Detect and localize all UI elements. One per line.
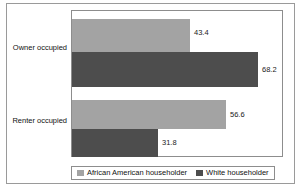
legend-label-white-householder: White householder bbox=[206, 169, 269, 177]
legend-item-african-american-householder: African American householder bbox=[77, 169, 187, 177]
plot-area: 43.4 68.2 56.6 31.8 bbox=[71, 10, 283, 157]
bar-group-renter-occupied: 56.6 31.8 bbox=[72, 100, 282, 156]
legend-label-african-american-householder: African American householder bbox=[87, 169, 187, 177]
bar-value-renter-occupied-white: 31.8 bbox=[162, 139, 177, 147]
legend-item-white-householder: White householder bbox=[196, 169, 269, 177]
bar-value-owner-occupied-african-american: 43.4 bbox=[194, 29, 209, 37]
legend-swatch-dark-gray-icon bbox=[196, 170, 203, 176]
category-label-renter-occupied: Renter occupied bbox=[12, 117, 67, 125]
bar-renter-occupied-african-american bbox=[72, 100, 226, 129]
bar-value-owner-occupied-white: 68.2 bbox=[262, 66, 277, 74]
bar-owner-occupied-white bbox=[72, 52, 258, 87]
bar-owner-occupied-african-american bbox=[72, 19, 190, 52]
plot-inner-region: 43.4 68.2 56.6 31.8 bbox=[72, 11, 282, 156]
bar-group-owner-occupied: 43.4 68.2 bbox=[72, 15, 282, 87]
legend-swatch-light-gray-icon bbox=[77, 170, 84, 176]
bar-value-renter-occupied-african-american: 56.6 bbox=[230, 111, 245, 119]
category-label-owner-occupied: Owner occupied bbox=[13, 44, 67, 52]
bar-renter-occupied-white bbox=[72, 129, 158, 157]
chart-legend: African American householder White house… bbox=[71, 166, 275, 180]
bar-chart-figure: Owner occupied Renter occupied 43.4 68.2… bbox=[0, 0, 303, 188]
